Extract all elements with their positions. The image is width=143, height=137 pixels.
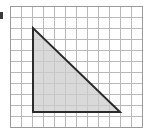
figure-root	[0, 0, 143, 137]
grid-and-shape-canvas	[0, 0, 143, 137]
left-edge-mark	[0, 12, 3, 19]
